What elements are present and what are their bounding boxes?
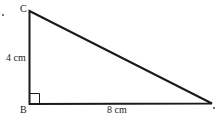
vertex-label-b: B [20,105,27,115]
side-label-cb: 4 cm [6,53,26,63]
stray-dot-right [213,107,215,109]
right-angle-marker [30,94,40,105]
vertex-label-c: C [20,4,27,14]
side-label-ba: 8 cm [107,105,127,115]
right-triangle-diagram [0,0,216,119]
triangle-outline [30,11,213,104]
stray-dot-left [2,14,4,16]
